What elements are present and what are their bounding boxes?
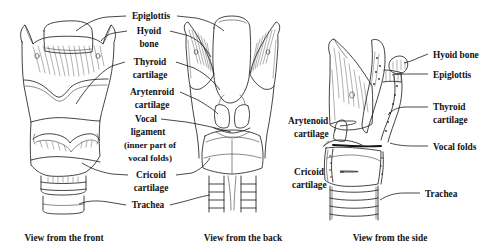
caption-view-from-the-side: View from the side — [353, 233, 428, 243]
label-thyroid-cartilage-side-line2: cartilage — [433, 115, 468, 125]
label-cricoid-cartilage-side-line1: Cricoid — [294, 167, 325, 177]
label-hyoid-bone-center-line2: bone — [139, 39, 158, 49]
label-arytenoid-cartilage-center-line2: cartilage — [135, 100, 170, 110]
label-epiglottis-side: Epiglottis — [433, 70, 472, 80]
label-thyroid-cartilage-center-line1: Thyroid — [134, 57, 167, 67]
label-cricoid-cartilage-side-line2: cartilage — [292, 180, 327, 190]
label-vocal-folds-side: Vocal folds — [433, 142, 477, 152]
label-cricoid-cartilage-center-line1: Cricoid — [136, 170, 167, 180]
label-hyoid-bone-center-line1: Hyoid — [137, 26, 162, 36]
label-thyroid-cartilage-side-line1: Thyroid — [433, 102, 466, 112]
label-vocal-ligament-line4: vocal folds) — [128, 153, 172, 163]
label-trachea-center: Trachea — [132, 200, 165, 210]
figure-canvas: Epiglottis Hyoid bone Thyroid cartilage … — [0, 0, 501, 252]
label-cricoid-cartilage-center-line2: cartilage — [134, 183, 169, 193]
label-vocal-ligament-line1: Vocal — [135, 114, 157, 124]
label-trachea-side: Trachea — [425, 189, 458, 199]
label-epiglottis-center: Epiglottis — [132, 11, 171, 21]
label-arytenoid-cartilage-center-line1: Arytenroid — [130, 87, 175, 97]
label-arytenoid-cartilage-side-line2: cartilage — [294, 129, 329, 139]
view-captions: View from the front View from the back V… — [24, 233, 427, 243]
larynx-figure: Epiglottis Hyoid bone Thyroid cartilage … — [0, 0, 501, 252]
label-hyoid-bone-side: Hyoid bone — [433, 50, 479, 60]
label-arytenoid-cartilage-side-line1: Arytenoid — [288, 116, 329, 126]
label-vocal-ligament-line3: (inner part of — [124, 140, 177, 150]
caption-view-from-the-back: View from the back — [204, 233, 283, 243]
label-thyroid-cartilage-center-line2: cartilage — [133, 70, 168, 80]
caption-view-from-the-front: View from the front — [24, 233, 104, 243]
label-vocal-ligament-line2: ligament — [131, 127, 167, 137]
